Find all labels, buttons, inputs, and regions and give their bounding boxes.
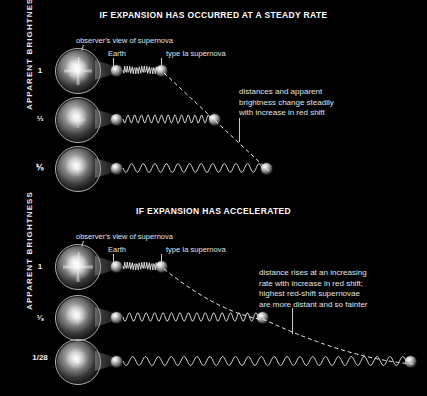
redshift-wave-steady-0 [123, 66, 157, 74]
trend-curve-accel [164, 269, 413, 364]
redshift-wave-accel-1 [123, 313, 258, 322]
redshift-wave-accel-2 [123, 357, 406, 366]
panel-steady-rate: IF EXPANSION HAS OCCURRED AT A STEADY RA… [0, 0, 427, 198]
panel-accelerated: IF EXPANSION HAS ACCELERATED APPARENT BR… [0, 198, 427, 396]
wave-and-trend-layer-steady [0, 0, 427, 198]
trend-line-steady [164, 73, 269, 171]
redshift-wave-steady-1 [123, 115, 210, 123]
redshift-wave-steady-2 [123, 164, 262, 173]
wave-and-trend-layer-accel [0, 198, 427, 396]
redshift-wave-accel-0 [123, 262, 157, 270]
